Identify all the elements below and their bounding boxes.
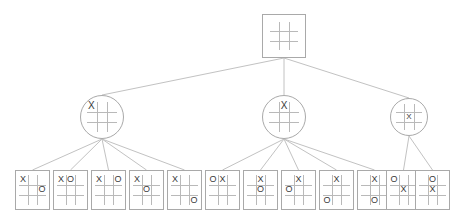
cell-r2-c2[interactable] <box>294 185 303 196</box>
cell-r2-c2[interactable]: X <box>428 185 437 196</box>
cell-r3-c3[interactable] <box>289 122 300 133</box>
cell-r1-c3[interactable] <box>289 21 299 31</box>
cell-r2-c1[interactable] <box>268 112 279 123</box>
cell-r1-c3[interactable] <box>289 101 300 112</box>
cell-r2-c1[interactable] <box>246 185 255 196</box>
cell-r1-c1[interactable]: X <box>94 174 103 185</box>
leaf-x-topmiddle-o-bottomleft[interactable]: XO <box>319 170 354 210</box>
cell-r1-c1[interactable] <box>268 101 279 112</box>
cell-r3-c1[interactable] <box>246 195 255 206</box>
leaf-x-topleft-o-topright[interactable]: XO <box>91 170 126 210</box>
cell-r3-c3[interactable] <box>265 195 274 206</box>
cell-r2-c3[interactable] <box>107 112 118 123</box>
cell-r2-c2[interactable] <box>332 185 341 196</box>
cell-r2-c2[interactable] <box>28 185 37 196</box>
cell-r2-c1[interactable]: O <box>284 185 293 196</box>
cell-r1-c2[interactable]: X <box>294 174 303 185</box>
cell-r2-c2[interactable] <box>104 185 113 196</box>
cell-r3-c2[interactable] <box>142 195 151 206</box>
cell-r1-c1[interactable]: O <box>389 174 398 185</box>
cell-r3-c1[interactable] <box>170 195 179 206</box>
leaf-x-topleft-o-midright[interactable]: XO <box>15 170 50 210</box>
cell-r1-c2[interactable]: O <box>428 174 437 185</box>
cell-r3-c1[interactable] <box>284 195 293 206</box>
cell-r1-c3[interactable] <box>75 174 84 185</box>
cell-r3-c3[interactable] <box>414 122 423 131</box>
cell-r3-c2[interactable] <box>294 195 303 206</box>
cell-r3-c2[interactable]: O <box>370 195 379 206</box>
cell-r2-c3[interactable] <box>113 185 122 196</box>
cell-r1-c2[interactable]: X <box>370 174 379 185</box>
cell-r1-c3[interactable]: O <box>113 174 122 185</box>
cell-r3-c2[interactable] <box>256 195 265 206</box>
cell-r2-c1[interactable] <box>269 31 279 41</box>
cell-r1-c1[interactable] <box>360 174 369 185</box>
cell-r3-c1[interactable] <box>395 122 404 131</box>
cell-r3-c2[interactable] <box>279 122 290 133</box>
cell-r3-c1[interactable] <box>94 195 103 206</box>
cell-r2-c3[interactable] <box>437 185 446 196</box>
cell-r2-c1[interactable] <box>322 185 331 196</box>
cell-r2-c1[interactable] <box>86 112 97 123</box>
cell-r2-c3[interactable] <box>227 185 236 196</box>
cell-r2-c2[interactable] <box>370 185 379 196</box>
cell-r3-c2[interactable] <box>66 195 75 206</box>
cell-r2-c1[interactable] <box>395 112 404 121</box>
cell-r1-c2[interactable]: X <box>332 174 341 185</box>
cell-r1-c3[interactable] <box>437 174 446 185</box>
cell-r3-c1[interactable]: O <box>322 195 331 206</box>
cell-r1-c2[interactable]: X <box>218 174 227 185</box>
cell-r2-c3[interactable] <box>289 31 299 41</box>
cell-r1-c1[interactable] <box>395 103 404 112</box>
cell-r1-c3[interactable] <box>265 174 274 185</box>
cell-r3-c2[interactable] <box>428 195 437 206</box>
cell-r2-c2[interactable]: O <box>256 185 265 196</box>
level1-x-top-middle[interactable]: X <box>262 95 306 139</box>
cell-r2-c1[interactable] <box>208 185 217 196</box>
cell-r3-c1[interactable] <box>269 41 279 51</box>
cell-r2-c2[interactable] <box>97 112 108 123</box>
cell-r1-c3[interactable] <box>189 174 198 185</box>
cell-r1-c1[interactable] <box>246 174 255 185</box>
cell-r1-c3[interactable] <box>151 174 160 185</box>
cell-r1-c3[interactable] <box>414 103 423 112</box>
cell-r2-c2[interactable] <box>279 112 290 123</box>
cell-r3-c3[interactable] <box>227 195 236 206</box>
cell-r2-c2[interactable] <box>180 185 189 196</box>
cell-r1-c1[interactable]: X <box>18 174 27 185</box>
cell-r3-c1[interactable] <box>132 195 141 206</box>
cell-r1-c3[interactable] <box>37 174 46 185</box>
cell-r1-c2[interactable] <box>28 174 37 185</box>
cell-r2-c1[interactable] <box>94 185 103 196</box>
leaf-x-topleft-o-topmiddle[interactable]: XO <box>53 170 88 210</box>
cell-r3-c2[interactable] <box>104 195 113 206</box>
cell-r3-c2[interactable] <box>97 122 108 133</box>
level1-x-center[interactable]: X <box>390 98 428 136</box>
cell-r3-c2[interactable] <box>279 41 289 51</box>
cell-r1-c2[interactable] <box>142 174 151 185</box>
cell-r1-c1[interactable]: X <box>170 174 179 185</box>
cell-r2-c3[interactable] <box>265 185 274 196</box>
cell-r3-c2[interactable] <box>399 195 408 206</box>
leaf-o-topmiddle-x-center[interactable]: OX <box>415 170 450 210</box>
cell-r1-c1[interactable] <box>269 21 279 31</box>
cell-r2-c2[interactable]: O <box>142 185 151 196</box>
root-empty-board[interactable] <box>262 14 306 58</box>
cell-r2-c3[interactable] <box>303 185 312 196</box>
level1-x-top-left[interactable]: X <box>80 95 124 139</box>
cell-r3-c2[interactable] <box>180 195 189 206</box>
cell-r3-c3[interactable] <box>437 195 446 206</box>
cell-r3-c3[interactable] <box>75 195 84 206</box>
cell-r2-c3[interactable] <box>151 185 160 196</box>
cell-r3-c1[interactable] <box>360 195 369 206</box>
leaf-x-topleft-o-center[interactable]: XO <box>129 170 164 210</box>
cell-r3-c2[interactable] <box>218 195 227 206</box>
cell-r2-c2[interactable]: X <box>404 112 413 121</box>
leaf-x-topmiddle-o-midleft[interactable]: XO <box>281 170 316 210</box>
leaf-x-topleft-o-bottomright[interactable]: XO <box>167 170 202 210</box>
cell-r1-c1[interactable] <box>418 174 427 185</box>
leaf-x-topmiddle-o-center[interactable]: XO <box>243 170 278 210</box>
cell-r1-c3[interactable] <box>107 101 118 112</box>
cell-r3-c1[interactable] <box>268 122 279 133</box>
cell-r2-c1[interactable] <box>18 185 27 196</box>
